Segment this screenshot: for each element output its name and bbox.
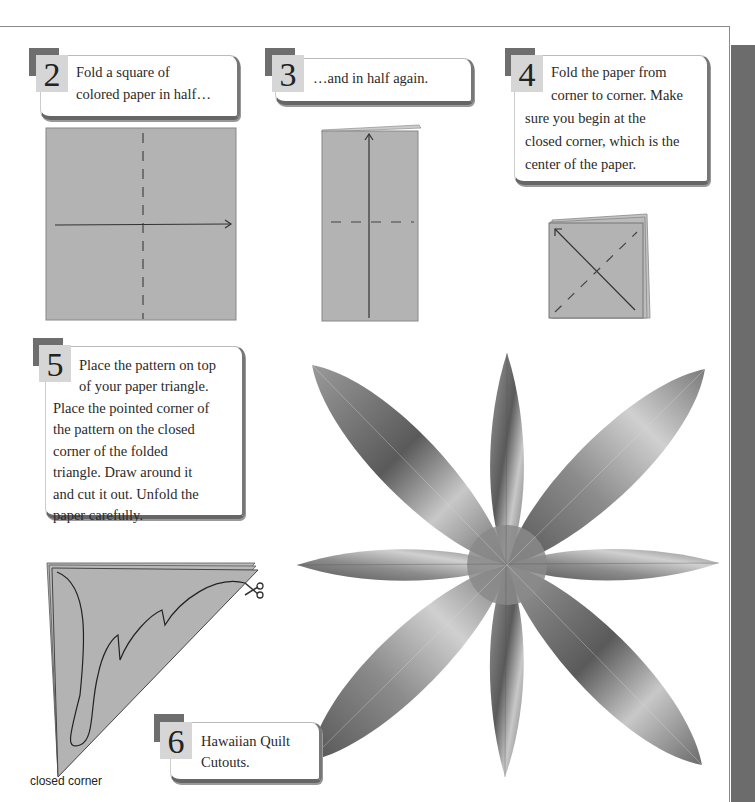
step-4-number: 4 (511, 55, 543, 92)
square-paper-fold-diagram (45, 127, 245, 327)
step-5-number: 5 (39, 345, 71, 382)
step-5-line-5: corner of the folded (53, 441, 168, 461)
step-2-line-2: colored paper in half… (76, 84, 211, 104)
step-5-line-4: the pattern on the closed (53, 419, 195, 439)
eight-petal-cutout-photo (292, 348, 722, 788)
scissors-icon (243, 581, 265, 601)
step-2-number: 2 (36, 55, 68, 92)
step-3-number: 3 (272, 55, 304, 92)
step-5-line-6: triangle. Draw around it (53, 462, 192, 482)
step-2-line-1: Fold a square of (76, 62, 170, 82)
page-edge-sidebar (731, 45, 755, 802)
step-5-line-8: paper carefully. (53, 505, 143, 525)
step-6-number: 6 (160, 722, 192, 759)
step-5-line-7: and cut it out. Unfold the (53, 484, 199, 504)
step-6-line-1: Hawaiian Quilt (201, 731, 290, 751)
step-4-line-3: sure you begin at the (525, 108, 646, 128)
step-4-line-2: corner to corner. Make (551, 85, 683, 105)
page-right-rule (729, 26, 730, 802)
step-5-line-1: Place the pattern on top (79, 355, 216, 375)
step-4-line-5: center of the paper. (525, 154, 636, 174)
step-6-line-2: Cutouts. (201, 752, 250, 772)
step-3-line-1: …and in half again. (313, 68, 428, 88)
closed-corner-label: closed corner (30, 774, 102, 788)
step-5-line-2: of your paper triangle. (79, 376, 209, 396)
square-diagonal-fold-diagram (547, 210, 657, 320)
page-top-rule (0, 26, 729, 27)
step-4-line-4: closed corner, which is the (525, 131, 679, 151)
step-5-line-3: Place the pointed corner of (53, 398, 209, 418)
step-4-line-1: Fold the paper from (551, 62, 667, 82)
rectangle-fold-diagram (319, 122, 429, 322)
